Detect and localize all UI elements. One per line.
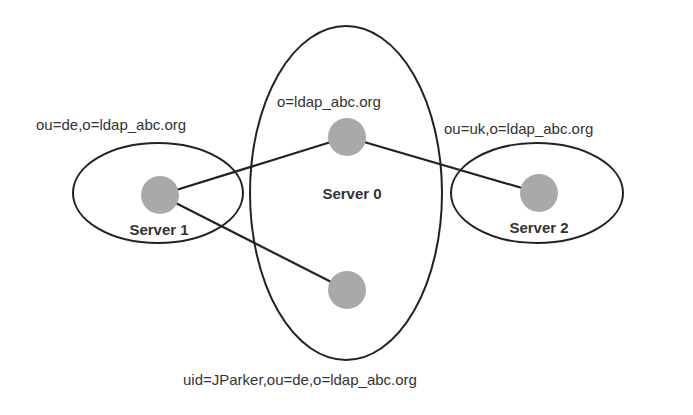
ldap-topology-diagram — [0, 0, 693, 415]
server-0-dn-label: o=ldap_abc.org — [277, 94, 381, 109]
node-de — [141, 176, 179, 214]
node-uk — [520, 174, 558, 212]
node-root — [328, 118, 366, 156]
server-2-label: Server 2 — [509, 220, 568, 235]
server-2-dn-label: ou=uk,o=ldap_abc.org — [444, 121, 593, 136]
entry-dn-label: uid=JParker,ou=de,o=ldap_abc.org — [183, 372, 417, 387]
server-1-label: Server 1 — [129, 222, 188, 237]
server-1-dn-label: ou=de,o=ldap_abc.org — [36, 117, 186, 132]
node-jparker — [328, 271, 366, 309]
server-0-label: Server 0 — [322, 186, 381, 201]
